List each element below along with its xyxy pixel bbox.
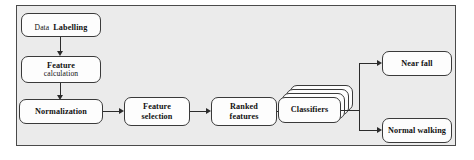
- node-near-fall-label: Near fall: [401, 59, 432, 68]
- node-data-labelling: Data Labelling: [21, 13, 101, 37]
- node-classifiers: Classifiers: [278, 97, 341, 123]
- edge-classifiers-to-near-fall-line: [359, 63, 379, 64]
- node-normal-walking-label: Normal walking: [388, 126, 446, 135]
- node-normalization-label: Normalization: [35, 107, 87, 116]
- node-feature-calculation: Feature calculation: [21, 56, 101, 83]
- flowchart-figure: Data Labelling Feature calculation Norma…: [0, 0, 474, 160]
- diagram-panel: Data Labelling Feature calculation Norma…: [16, 5, 456, 146]
- node-feature-calculation-line2: calculation: [44, 70, 78, 79]
- node-feature-selection: Feature selection: [124, 97, 190, 126]
- node-normalization: Normalization: [19, 99, 103, 124]
- node-data-labelling-line1: Data: [35, 23, 50, 32]
- node-feature-selection-line1: Feature: [143, 102, 171, 111]
- node-classifiers-label: Classifiers: [291, 105, 328, 114]
- branch-stem-line: [341, 110, 359, 111]
- node-ranked-features-line2: features: [230, 112, 259, 121]
- node-ranked-features: Ranked features: [211, 97, 277, 126]
- node-feature-selection-line2: selection: [142, 112, 173, 121]
- node-data-labelling-text: Data Labelling: [35, 16, 88, 34]
- node-data-labelling-line2: Labelling: [53, 23, 87, 32]
- node-near-fall: Near fall: [382, 51, 452, 76]
- node-ranked-features-line1: Ranked: [230, 102, 258, 111]
- node-normal-walking: Normal walking: [382, 118, 452, 143]
- branch-riser-line: [359, 63, 360, 131]
- edge-classifiers-to-normal-walking-line: [359, 130, 379, 131]
